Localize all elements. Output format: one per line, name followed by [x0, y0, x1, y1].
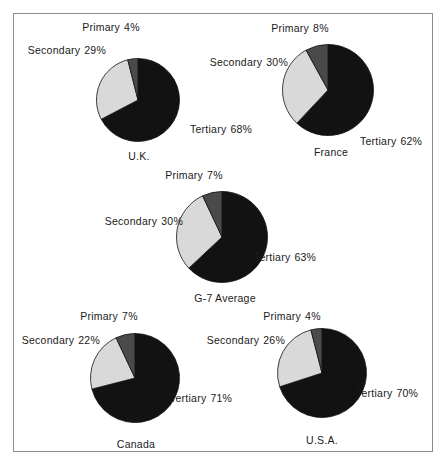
pie-france-primary-label: Primary8%	[271, 22, 329, 34]
pie-chart-g7	[176, 191, 268, 283]
pie-canada-title: Canada	[117, 438, 155, 450]
pie-uk-primary-label: Primary4%	[82, 21, 140, 33]
pie-france-svg	[282, 44, 374, 136]
pie-uk-tertiary-label: Tertiary68%	[190, 123, 252, 135]
pie-g7-secondary-label: Secondary30%	[105, 215, 183, 227]
pie-g7-primary-label: Primary7%	[165, 169, 223, 181]
pie-canada-primary-label: Primary7%	[80, 310, 138, 322]
pie-usa-secondary-label: Secondary26%	[207, 334, 285, 346]
pie-chart-canada	[90, 333, 180, 423]
pie-usa-svg	[277, 328, 367, 418]
pie-canada-svg	[90, 333, 180, 423]
pie-canada-secondary-label: Secondary22%	[22, 334, 100, 346]
pie-usa-primary-label: Primary4%	[263, 310, 321, 322]
pie-france-title: France	[314, 146, 348, 158]
pie-usa-title: U.S.A.	[306, 434, 338, 446]
pie-canada-tertiary-label: Tertiary71%	[170, 392, 232, 404]
pie-france-secondary-label: Secondary30%	[210, 56, 288, 68]
pie-uk-title: U.K.	[128, 150, 149, 162]
pie-g7-title: G-7 Average	[194, 292, 256, 304]
pie-g7-tertiary-label: Tertiary63%	[254, 251, 316, 263]
pie-chart-usa	[277, 328, 367, 418]
figure-canvas: Primary4% Secondary29% Tertiary68% U.K. …	[0, 0, 447, 465]
pie-france-tertiary-label: Tertiary62%	[360, 135, 422, 147]
pie-chart-france	[282, 44, 374, 136]
pie-usa-tertiary-label: Tertiary70%	[356, 387, 418, 399]
pie-uk-secondary-label: Secondary29%	[28, 44, 106, 56]
pie-g7-svg	[176, 191, 268, 283]
pie-chart-uk	[96, 58, 180, 142]
pie-uk-svg	[96, 58, 180, 142]
